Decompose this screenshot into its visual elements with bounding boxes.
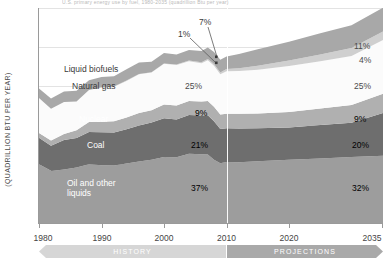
share-oil-2035: 32% [352, 184, 369, 193]
xtick-label-2035: 2035 [363, 233, 382, 243]
xtick-label-2020: 2020 [280, 233, 299, 243]
band-label-coal: Coal [87, 141, 104, 151]
share-gas-2035: 25% [354, 82, 371, 91]
projections-label: PROJECTIONS [274, 248, 336, 255]
chart-title-clipped: U.S. primary energy use by fuel, 1980-20… [62, 0, 338, 5]
history-label: HISTORY [113, 248, 152, 255]
share-coal-2035: 20% [352, 141, 369, 150]
share-coal-2010: 21% [191, 141, 208, 150]
band-label-renewables: Renewables [72, 50, 119, 60]
xtick-label-2000: 2000 [155, 233, 174, 243]
share-nuclear-2035: 9% [354, 115, 366, 124]
xtick-mark-2010 [227, 224, 228, 228]
share-gas-2010: 25% [185, 82, 202, 91]
y-axis-label-wrap: (QUADRILLION BTU PER YEAR) [0, 58, 14, 208]
y-axis-label: (QUADRILLION BTU PER YEAR) [4, 55, 11, 205]
plot-area: 1980 1990 2000 2010 2020 2035 Renewables… [39, 8, 383, 223]
history-projection-divider [227, 8, 228, 223]
callout-label-7pct: 7% [199, 17, 211, 27]
band-label-oil-line2: liquids [67, 188, 91, 198]
xtick-mark-2020 [289, 224, 290, 228]
xtick-mark-1980 [39, 224, 40, 228]
x-axis-line [39, 223, 383, 224]
band-label-nuclear: Nuclear [79, 115, 108, 125]
history-period-band: HISTORY [39, 245, 226, 258]
share-nuclear-2010: 9% [195, 109, 207, 118]
band-label-oil-line1: Oil and other [67, 178, 116, 188]
xtick-label-1990: 1990 [93, 233, 112, 243]
band-label-oil: Oil and other liquids [67, 179, 116, 198]
xtick-mark-1990 [102, 224, 103, 228]
band-label-natural-gas: Natural gas [72, 82, 115, 92]
y-axis-line [38, 8, 39, 224]
share-renewables-2035: 11% [354, 42, 370, 51]
projections-period-band: PROJECTIONS [227, 245, 383, 258]
energy-area-chart: U.S. primary energy use by fuel, 1980-20… [0, 0, 383, 267]
band-label-liquid-biofuels: Liquid biofuels [64, 65, 118, 75]
callout-label-1pct: 1% [178, 29, 190, 39]
share-biofuels-2035: 4% [359, 56, 371, 65]
xtick-label-1980: 1980 [34, 233, 53, 243]
xtick-mark-2000 [164, 224, 165, 228]
share-oil-2010: 37% [191, 184, 208, 193]
xtick-label-2010: 2010 [217, 233, 236, 243]
